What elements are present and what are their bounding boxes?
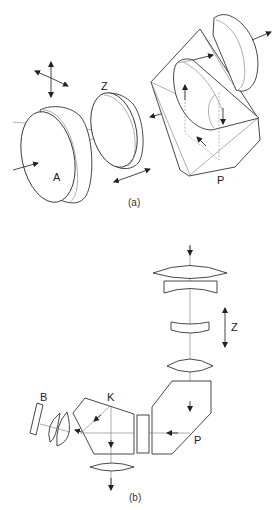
caption-a: (a)	[128, 197, 140, 208]
aperture-disc-a	[13, 107, 92, 208]
figure-a: A Z	[13, 15, 271, 208]
zoom-meniscus-lens	[171, 322, 209, 333]
prism-assembly-p	[151, 15, 271, 176]
caption-b: (b)	[129, 492, 141, 503]
element-b	[30, 403, 43, 435]
relay-lens	[167, 359, 213, 372]
label-k: K	[107, 391, 115, 403]
zoom-movement-arrow-icon	[114, 169, 150, 182]
zoom-disc-z	[83, 88, 144, 172]
label-b: B	[40, 391, 47, 403]
eyepiece-lens	[90, 463, 134, 471]
label-z-a: Z	[101, 80, 108, 92]
movement-cross-icon	[35, 62, 68, 97]
label-p-a: P	[217, 174, 224, 186]
negative-lens	[164, 281, 217, 293]
figure-b: Z P K B (b)	[30, 245, 238, 503]
objective-lens-1	[153, 266, 227, 279]
prism-k	[73, 398, 134, 454]
label-p-b: P	[194, 434, 201, 446]
optical-diagram: A Z	[0, 0, 274, 510]
label-z-b: Z	[231, 321, 238, 333]
label-a: A	[53, 171, 61, 183]
compensator-block	[137, 415, 149, 453]
prism-p	[152, 381, 211, 454]
